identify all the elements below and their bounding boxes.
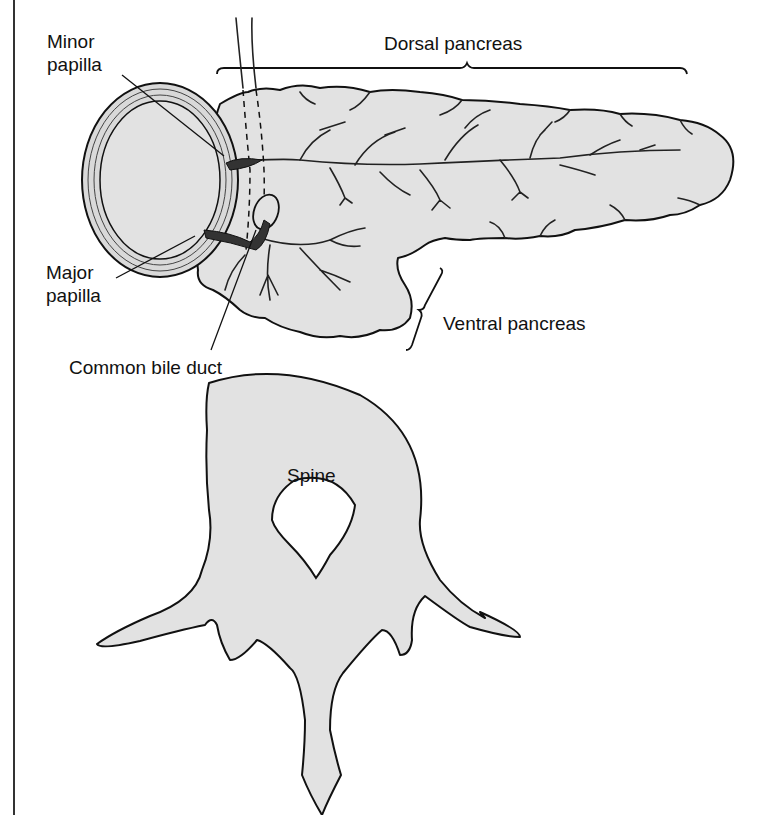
bile-duct-upper-left (236, 18, 243, 88)
ventral-pancreas-label: Ventral pancreas (443, 312, 586, 335)
dorsal-pancreas-bracket (217, 63, 687, 74)
major-papilla-label-line1: Major (46, 261, 101, 284)
major-papilla-label: Major papilla (46, 261, 101, 307)
dorsal-pancreas-label: Dorsal pancreas (384, 32, 522, 55)
minor-papilla-label-line2: papilla (47, 53, 102, 76)
spine-vertebra (97, 374, 520, 815)
bile-duct-upper-right (252, 18, 256, 88)
common-bile-duct-label: Common bile duct (69, 356, 222, 379)
duodenum (82, 83, 238, 277)
spine-label: Spine (287, 464, 336, 487)
minor-papilla-label-line1: Minor (47, 30, 102, 53)
minor-papilla-label: Minor papilla (47, 30, 102, 76)
major-papilla-label-line2: papilla (46, 284, 101, 307)
anatomy-illustration (0, 0, 765, 815)
